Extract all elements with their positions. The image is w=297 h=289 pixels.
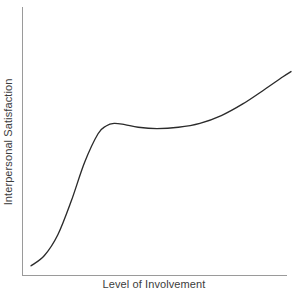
line-chart-figure: Interpersonal Satisfaction Level of Invo… xyxy=(0,0,297,289)
chart-background xyxy=(0,0,297,289)
chart-container: Interpersonal Satisfaction Level of Invo… xyxy=(0,0,297,289)
y-axis-label: Interpersonal Satisfaction xyxy=(2,79,14,206)
x-axis-label: Level of Involvement xyxy=(103,278,206,289)
